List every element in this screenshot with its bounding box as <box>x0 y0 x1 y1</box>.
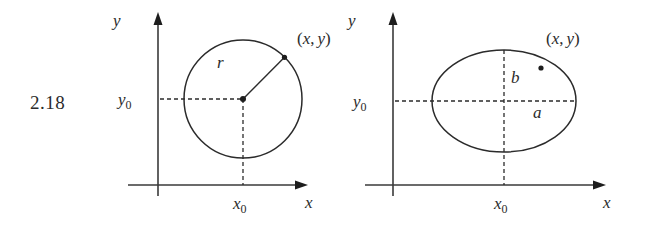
x-axis-arrowhead-right <box>593 181 606 190</box>
circle-panel: y x r y0 x0 <box>111 11 331 216</box>
y0-base-right: y <box>351 92 361 111</box>
y-axis-arrowhead-right <box>389 12 398 25</box>
y0-subscript: 0 <box>126 98 132 112</box>
y0-base: y <box>116 90 126 109</box>
circle-point-label: (x,y) <box>297 29 331 48</box>
y0-tick-label: y0 <box>116 90 132 112</box>
figure-canvas: 2.18 y x r <box>0 0 647 227</box>
svg-text:y0: y0 <box>351 92 367 114</box>
ellipse-point-label: (x,y) <box>546 29 580 48</box>
paren-close: ) <box>325 29 331 48</box>
point-comma-right: , <box>559 29 563 48</box>
point-y-right: y <box>564 29 574 48</box>
svg-text:x0: x0 <box>232 194 247 216</box>
svg-text:(x,y): (x,y) <box>297 29 331 48</box>
svg-text:(x,y): (x,y) <box>546 29 580 48</box>
circle-center-dot <box>240 96 246 102</box>
x-axis-arrowhead <box>295 181 308 190</box>
y0-tick-label-right: y0 <box>351 92 367 114</box>
point-y: y <box>315 29 325 48</box>
y-axis-arrowhead <box>154 12 163 25</box>
y-axis-label: y <box>111 11 121 30</box>
svg-text:y0: y0 <box>116 90 132 112</box>
ellipse-point-dot <box>538 65 543 70</box>
circle-point-dot <box>282 55 287 60</box>
point-comma: , <box>310 29 314 48</box>
y0-subscript-right: 0 <box>361 100 367 114</box>
x0-subscript-right: 0 <box>502 202 508 216</box>
paren-close-right: ) <box>574 29 580 48</box>
x0-subscript: 0 <box>241 202 247 216</box>
ellipse-panel: y x b a y0 x0 <box>346 11 611 216</box>
x-axis-label-right: x <box>602 193 611 212</box>
y-axis-label-right: y <box>346 11 356 30</box>
radius-label: r <box>217 53 224 72</box>
x0-tick-label-right: x0 <box>493 194 508 216</box>
svg-text:x0: x0 <box>493 194 508 216</box>
semi-major-axis-label: a <box>533 103 542 122</box>
x-axis-label: x <box>304 193 313 212</box>
figure-number: 2.18 <box>30 92 65 113</box>
x0-tick-label: x0 <box>232 194 247 216</box>
semi-minor-axis-label: b <box>511 68 520 87</box>
figure-page: 2.18 y x r <box>0 0 647 227</box>
radius-line <box>243 57 285 99</box>
